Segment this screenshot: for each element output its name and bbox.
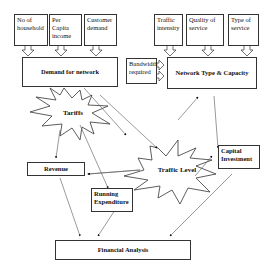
block-arrow-icon: [90, 45, 102, 56]
tariffs-label: Tariffs: [58, 109, 88, 117]
network-type-capacity-box: Network Type & Capacity: [167, 57, 257, 89]
block-arrow-icon: [22, 45, 34, 56]
input-traffic-intensity: Traffic intensity: [154, 14, 183, 46]
running-expenditure-box: Running Expenditure: [91, 188, 133, 212]
input-households: No of household: [14, 14, 48, 46]
input-customer-demand: Customer demand: [84, 14, 117, 46]
traffic-level-label: Traffic Level: [155, 166, 199, 174]
demand-for-network-box: Demand for network: [22, 57, 118, 87]
financial-analysis-box: Financial Analysis: [55, 240, 191, 260]
block-arrow-icon: [202, 45, 214, 56]
input-per-capita-income: Per Capita income: [49, 14, 82, 46]
input-type-of-service: Type of service: [228, 14, 259, 46]
revenue-box: Revenue: [27, 162, 85, 176]
capital-investment-box: Capital Investment: [218, 145, 260, 169]
input-bandwidth-required: Bandwidth required: [126, 58, 157, 84]
block-arrow-icon: [241, 45, 253, 56]
input-quality-of-service: Quality of service: [186, 14, 224, 46]
block-arrow-icon: [55, 45, 67, 56]
block-arrow-icon: [164, 45, 176, 56]
